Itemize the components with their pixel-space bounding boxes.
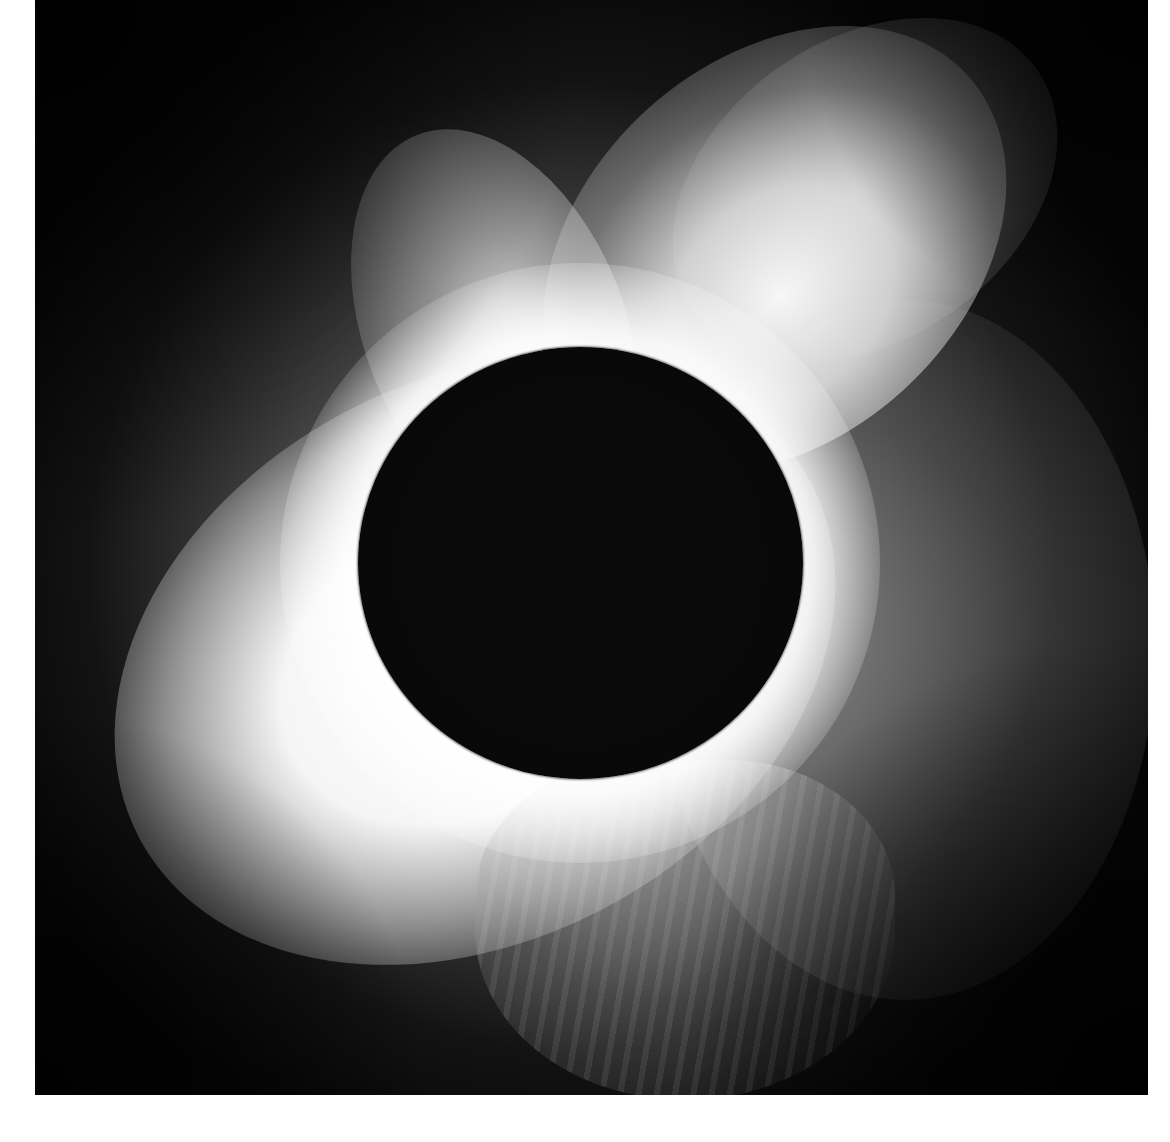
eclipse-photo [35,0,1148,1095]
corona-rays-lower [475,760,895,1095]
moon-disk [358,347,803,779]
corona-plume-top-right [607,0,1123,433]
